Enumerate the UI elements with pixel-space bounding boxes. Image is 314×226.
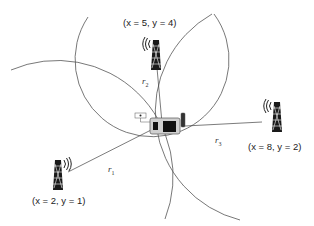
cell-tower-icon [143,37,161,70]
tower-3-coordinates: (x = 8, y = 2) [248,141,301,152]
tower-1-coordinates: (x = 2, y = 1) [32,195,85,206]
mobile-device-icon [135,113,185,134]
radius-label-r2: r2 [142,76,149,88]
trilateration-diagram [0,0,314,226]
radius-label-r3: r3 [215,135,222,147]
radius-label-r1: r1 [108,164,115,176]
cell-tower-icon [264,99,282,132]
range-arc-r3 [155,14,240,220]
cell-tower-icon [53,157,71,190]
tower-2-coordinates: (x = 5, y = 4) [123,17,176,28]
